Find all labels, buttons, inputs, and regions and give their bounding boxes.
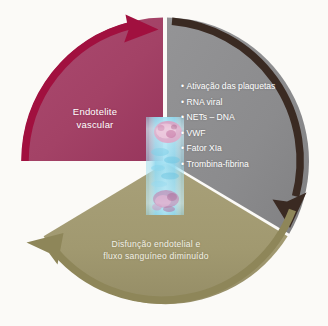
bullet-glyph: • bbox=[181, 81, 184, 91]
list-item-label: Trombina-fibrina bbox=[187, 159, 249, 169]
list-item: •RNA viral bbox=[181, 97, 301, 107]
bullet-glyph: • bbox=[181, 112, 184, 122]
list-item: •NETs – DNA bbox=[181, 112, 301, 122]
list-item-label: VWF bbox=[187, 128, 206, 138]
list-item-label: NETs – DNA bbox=[187, 112, 235, 122]
list-item: •VWF bbox=[181, 128, 301, 138]
list-item-label: Fator XIa bbox=[187, 143, 222, 153]
list-item-label: RNA viral bbox=[187, 97, 223, 107]
list-item-label: Ativação das plaquetas bbox=[187, 81, 276, 91]
sector-activation-bullet-list: •Ativação das plaquetas •RNA viral •NETs… bbox=[181, 81, 301, 175]
list-item: •Fator XIa bbox=[181, 143, 301, 153]
list-item: •Ativação das plaquetas bbox=[181, 81, 301, 91]
list-item: •Trombina-fibrina bbox=[181, 159, 301, 169]
vessel-micrograph bbox=[146, 117, 184, 215]
bullet-glyph: • bbox=[181, 159, 184, 169]
bullet-glyph: • bbox=[181, 97, 184, 107]
bullet-glyph: • bbox=[181, 128, 184, 138]
bullet-glyph: • bbox=[181, 143, 184, 153]
